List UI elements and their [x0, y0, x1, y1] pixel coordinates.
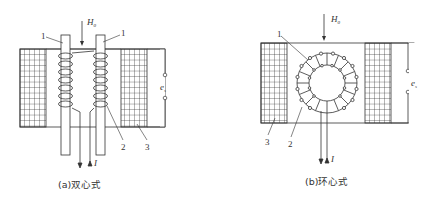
- field-label-a: H0: [86, 17, 97, 28]
- part-label-coil-b: 2: [288, 139, 293, 149]
- part-label-pickup-b: 3: [265, 137, 270, 147]
- field-label-b: H0: [330, 14, 341, 25]
- caption-a: (a)双心式: [58, 179, 101, 190]
- part-label-coil-a: 2: [121, 142, 126, 152]
- current-label-b: I: [330, 154, 335, 164]
- field-arrow-b: [322, 14, 326, 41]
- figure-a-dual-core: es: [20, 17, 167, 190]
- diagram-canvas: es: [0, 0, 422, 205]
- pickup-coil-grid-right: [121, 49, 147, 127]
- pickup-coil-grid-left-b: [261, 43, 287, 123]
- part-label-core-left: 1: [41, 31, 46, 41]
- part-label-core-b: 1: [277, 29, 282, 39]
- part-label-pickup-a: 3: [145, 142, 150, 152]
- caption-b: (b)环心式: [305, 176, 348, 187]
- pickup-coil-grid-left: [20, 49, 46, 127]
- terminal-bottom-a: [163, 96, 167, 100]
- pickup-coil-grid-right-b: [365, 43, 391, 123]
- field-arrow-a: [80, 21, 84, 46]
- terminal-top-a: [163, 73, 167, 77]
- current-label-a: I: [93, 158, 98, 168]
- figure-b-ring-core: es: [261, 14, 417, 187]
- part-label-core-right: 1: [121, 28, 126, 38]
- current-leads-b: [319, 101, 329, 164]
